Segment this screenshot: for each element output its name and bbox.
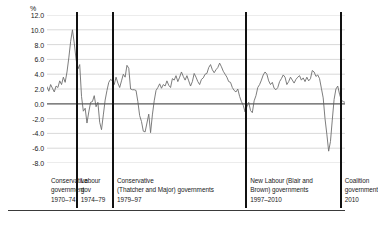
period-label-labour-1974: Labourgov1974–79 — [81, 176, 111, 204]
period-label-band: Conservativegovernment1970–74Labourgov19… — [8, 176, 351, 218]
period-label-line-1: New Labour (Blair and — [250, 176, 337, 185]
y-tick-2p0: 2.0 — [8, 86, 44, 93]
period-label-line-3: 1974–79 — [81, 195, 111, 204]
period-label-line-3: 1997–2010 — [250, 195, 337, 204]
gridlines — [47, 15, 345, 163]
y-tick-8p0: 8.0 — [8, 41, 44, 48]
period-label-line-2: government — [345, 185, 375, 194]
gdp-growth-line — [47, 30, 345, 151]
period-label-line-2: government — [51, 185, 81, 194]
chart-canvas — [47, 15, 345, 163]
y-tick-6p0: 6.0 — [8, 56, 44, 63]
y-tick-neg6p0: -6.0 — [8, 145, 44, 152]
label-band-rule — [8, 210, 345, 211]
y-tick-10p0: 10.0 — [8, 26, 44, 33]
period-label-line-1: Labour — [81, 176, 111, 185]
period-label-line-1: Conservative — [117, 176, 243, 185]
y-tick-neg2p0: -2.0 — [8, 115, 44, 122]
period-label-conservative-1970: Conservativegovernment1970–74 — [51, 176, 81, 204]
period-label-new-labour-1997: New Labour (Blair andBrown) governments1… — [250, 176, 337, 204]
y-tick-12p0: 12.0 — [8, 12, 44, 19]
period-label-conservative-1979: Conservative(Thatcher and Major) governm… — [117, 176, 243, 204]
y-tick-0p0: 0.0 — [8, 100, 44, 107]
period-label-line-3: 2010 — [345, 195, 375, 204]
period-label-line-2: gov — [81, 185, 111, 194]
period-label-line-2: Brown) governments — [250, 185, 337, 194]
period-label-line-2: (Thatcher and Major) governments — [117, 185, 243, 194]
period-label-line-3: 1970–74 — [51, 195, 81, 204]
period-label-line-3: 1979–97 — [117, 195, 243, 204]
y-tick-neg4p0: -4.0 — [8, 130, 44, 137]
period-label-line-1: Coalition — [345, 176, 375, 185]
period-label-line-1: Conservative — [51, 176, 81, 185]
period-label-coalition-2010: Coalitiongovernment2010 — [345, 176, 375, 204]
y-tick-4p0: 4.0 — [8, 71, 44, 78]
y-tick-neg8p0: -8.0 — [8, 160, 44, 167]
plot-area — [47, 15, 345, 163]
